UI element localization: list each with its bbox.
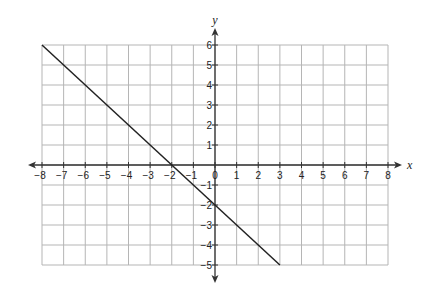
x-tick-label: −5 xyxy=(99,170,111,181)
x-tick-label: 3 xyxy=(277,170,283,181)
x-tick-label: −6 xyxy=(78,170,90,181)
tick-labels: −8−7−6−5−4−3−2−1012345678−5−4−3−2−112345… xyxy=(34,40,391,271)
x-tick-label: 1 xyxy=(234,170,240,181)
plotted-line xyxy=(42,45,280,265)
x-tick-label: 7 xyxy=(364,170,370,181)
coordinate-plane: −8−7−6−5−4−3−2−1012345678−5−4−3−2−112345… xyxy=(0,0,434,300)
y-tick-label: −1 xyxy=(201,180,213,191)
y-tick-label: −4 xyxy=(201,240,213,251)
y-axis-label: y xyxy=(211,13,218,27)
x-tick-label: −2 xyxy=(164,170,176,181)
x-tick-label: 6 xyxy=(342,170,348,181)
y-tick-label: 4 xyxy=(206,80,212,91)
x-tick-label: −8 xyxy=(34,170,46,181)
data-line xyxy=(42,45,280,265)
x-tick-label: 4 xyxy=(299,170,305,181)
y-tick-label: 2 xyxy=(206,120,212,131)
y-tick-label: 3 xyxy=(206,100,212,111)
x-tick-label: 8 xyxy=(385,170,391,181)
y-tick-label: 6 xyxy=(206,40,212,51)
x-tick-label: −7 xyxy=(56,170,68,181)
y-tick-label: −3 xyxy=(201,220,213,231)
x-tick-label: 0 xyxy=(212,170,218,181)
x-tick-label: 5 xyxy=(320,170,326,181)
y-tick-label: 5 xyxy=(206,60,212,71)
x-axis-label: x xyxy=(406,158,413,172)
x-tick-label: −3 xyxy=(142,170,154,181)
y-tick-label: 1 xyxy=(206,140,212,151)
x-tick-label: −4 xyxy=(121,170,133,181)
x-tick-label: 2 xyxy=(255,170,261,181)
y-tick-label: −5 xyxy=(201,260,213,271)
